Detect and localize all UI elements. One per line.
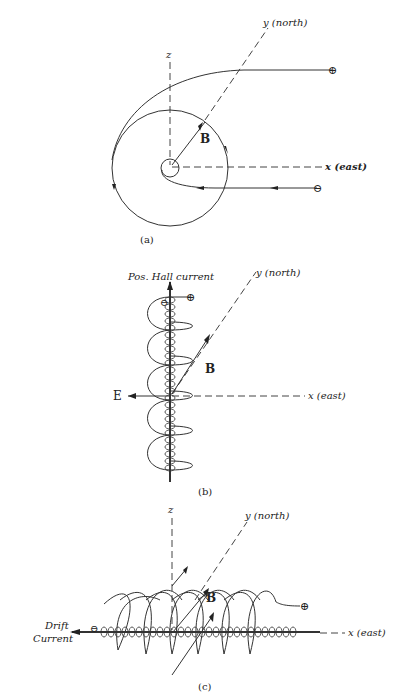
- negative-trajectory: [162, 170, 317, 188]
- caption-b: (b): [198, 486, 212, 497]
- caption-a: (a): [140, 234, 154, 245]
- b-field-label: B: [205, 362, 215, 376]
- y-axis: [205, 28, 268, 120]
- x-axis-label: x (east): [324, 161, 367, 172]
- y-axis-label: y (north): [262, 17, 307, 28]
- velocity-arrow-icon: [183, 566, 188, 574]
- caption-c: (c): [198, 681, 212, 692]
- panel-c: z y (north) B Drift Current x (east): [33, 504, 386, 692]
- up-arrow-icon: [167, 281, 173, 290]
- panel-a: z y (north) x (east) B ⊕ ⊖ (a): [112, 17, 367, 245]
- e-arrow-icon: [128, 393, 136, 399]
- drift-label-line1: Drift: [44, 620, 70, 631]
- x-axis-label: x (east): [308, 390, 346, 401]
- negative-charge-icon: ⊖: [90, 623, 98, 634]
- y-axis-label: y (north): [244, 510, 289, 521]
- z-axis-label: z: [167, 504, 174, 515]
- e-field-label: E: [113, 389, 122, 403]
- b-vector: [172, 338, 208, 394]
- negative-charge-icon: ⊖: [160, 297, 168, 308]
- y-axis-label: y (north): [255, 267, 300, 278]
- positive-charge-icon: ⊕: [328, 64, 337, 77]
- direction-arrow-icon: [196, 186, 204, 190]
- direction-arrow-icon: [270, 186, 278, 190]
- figure-canvas: z y (north) x (east) B ⊕ ⊖ (a) Pos. Hall…: [0, 0, 403, 699]
- hall-current-label: Pos. Hall current: [127, 271, 215, 282]
- b-vector-lower: [172, 615, 213, 675]
- z-axis-label: z: [165, 49, 172, 60]
- positive-trajectory: [112, 70, 332, 160]
- panel-b: Pos. Hall current y (north) B x (east) E: [113, 267, 346, 497]
- x-axis-label: x (east): [348, 627, 386, 638]
- b-field-label: B: [200, 132, 210, 146]
- large-orbit: [112, 110, 228, 226]
- large-helix: [104, 590, 300, 654]
- drift-label-line2: Current: [33, 633, 74, 644]
- positive-charge-icon: ⊕: [186, 291, 195, 304]
- positive-charge-icon: ⊕: [300, 600, 309, 613]
- negative-charge-icon: ⊖: [313, 182, 322, 195]
- y-axis: [195, 522, 247, 600]
